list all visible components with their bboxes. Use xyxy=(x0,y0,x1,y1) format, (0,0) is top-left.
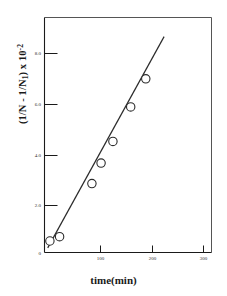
fit-line xyxy=(48,37,164,248)
y-origin-label: 0 xyxy=(39,251,42,256)
data-point xyxy=(142,75,150,83)
x-tick-labels: 100 200 300 xyxy=(97,256,208,261)
data-markers xyxy=(46,75,150,246)
data-point xyxy=(88,179,96,187)
x-tick-label: 100 xyxy=(97,256,105,261)
axis-frame xyxy=(45,18,212,253)
x-tick-label: 200 xyxy=(149,256,157,261)
x-axis-ticks xyxy=(101,246,204,253)
chart-figure: 8.0 6.0 4.0 2.0 0 100 200 300 (1/N - 1/N… xyxy=(0,0,227,296)
y-tick-label: 2.0 xyxy=(35,203,42,208)
plot-area: 8.0 6.0 4.0 2.0 0 100 200 300 xyxy=(0,0,227,296)
data-point xyxy=(109,137,117,145)
data-point xyxy=(46,237,54,245)
y-tick-label: 4.0 xyxy=(35,153,42,158)
data-point xyxy=(55,232,63,240)
y-tick-label: 8.0 xyxy=(35,51,42,56)
x-tick-label: 300 xyxy=(200,256,208,261)
data-point xyxy=(126,103,134,111)
x-axis-title: time(min) xyxy=(0,274,227,286)
y-tick-labels: 8.0 6.0 4.0 2.0 0 xyxy=(35,51,42,255)
y-axis-ticks xyxy=(45,54,58,206)
data-point xyxy=(97,159,105,167)
fit-line-segment xyxy=(48,37,164,248)
y-tick-label: 6.0 xyxy=(35,102,42,107)
